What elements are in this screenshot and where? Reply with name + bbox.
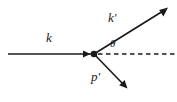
- label-outgoing-p-prime: p': [91, 70, 100, 83]
- outgoing-k-prime-line: [94, 11, 163, 54]
- label-k-prime-mark: ': [114, 11, 117, 25]
- incoming-k-arrowhead-icon: [83, 50, 91, 57]
- label-p-prime-mark: ': [98, 70, 101, 84]
- interaction-vertex: [91, 51, 98, 58]
- scattering-diagram: k k' p' θ: [0, 0, 177, 102]
- label-scattering-angle-theta: θ: [110, 38, 115, 49]
- diagram-canvas: [0, 0, 177, 102]
- label-outgoing-k-prime: k': [108, 11, 116, 24]
- label-incoming-k: k: [46, 31, 52, 44]
- k-prime-arrowhead-icon: [159, 8, 168, 17]
